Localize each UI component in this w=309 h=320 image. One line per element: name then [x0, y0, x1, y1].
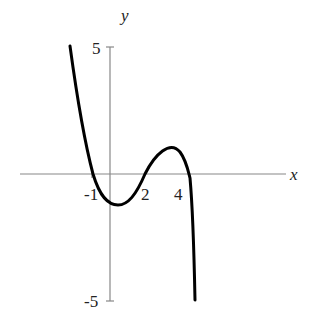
x-tick-label-4: 4 — [174, 185, 183, 204]
y-tick-label-neg5: -5 — [84, 292, 98, 311]
cubic-graph: y x 5 -5 -1 2 4 — [0, 0, 309, 320]
y-axis-label: y — [119, 6, 129, 25]
x-tick-label-2: 2 — [141, 185, 150, 204]
x-tick-label-neg1: -1 — [84, 185, 98, 204]
cubic-curve — [70, 46, 195, 300]
x-axis-label: x — [289, 165, 298, 184]
y-tick-label-5: 5 — [92, 39, 101, 58]
